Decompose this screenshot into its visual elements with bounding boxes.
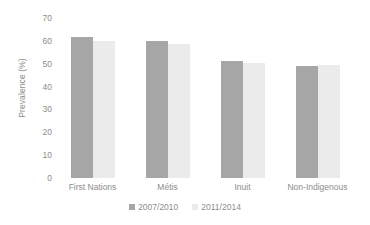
y-tick-label: 40	[30, 83, 52, 92]
bar	[146, 41, 168, 178]
legend-item[interactable]: 2011/2014	[192, 203, 241, 212]
bar	[243, 63, 265, 178]
y-axis-tick-labels: 010203040506070	[30, 18, 52, 178]
legend-label: 2007/2010	[138, 203, 178, 212]
legend-item[interactable]: 2007/2010	[129, 203, 178, 212]
bar-group	[130, 18, 205, 178]
bar-group	[205, 18, 280, 178]
bar	[296, 66, 318, 178]
y-tick-label: 0	[30, 174, 52, 183]
bar	[318, 65, 340, 178]
bar	[93, 41, 115, 178]
y-tick-label: 70	[30, 14, 52, 23]
legend-swatch-icon	[129, 204, 135, 210]
x-category-label: Métis	[130, 182, 205, 192]
y-tick-label: 30	[30, 105, 52, 114]
bar-group	[280, 18, 355, 178]
bar	[168, 44, 190, 178]
legend-swatch-icon	[192, 204, 198, 210]
x-axis-category-labels: First NationsMétisInuitNon-Indigenous	[55, 182, 355, 196]
x-category-label: Non-Indigenous	[280, 182, 355, 192]
y-tick-label: 10	[30, 151, 52, 160]
legend-label: 2011/2014	[201, 203, 241, 212]
y-axis-title: Prevalence (%)	[14, 0, 30, 178]
y-tick-label: 20	[30, 128, 52, 137]
bar	[71, 37, 93, 178]
bar	[221, 61, 243, 178]
y-tick-label: 60	[30, 37, 52, 46]
x-category-label: First Nations	[55, 182, 130, 192]
chart-legend: 2007/20102011/2014	[0, 200, 370, 214]
y-tick-label: 50	[30, 60, 52, 69]
x-category-label: Inuit	[205, 182, 280, 192]
bar-chart: Prevalence (%) 010203040506070 First Nat…	[0, 0, 370, 225]
bar-group	[55, 18, 130, 178]
plot-area	[55, 18, 355, 178]
